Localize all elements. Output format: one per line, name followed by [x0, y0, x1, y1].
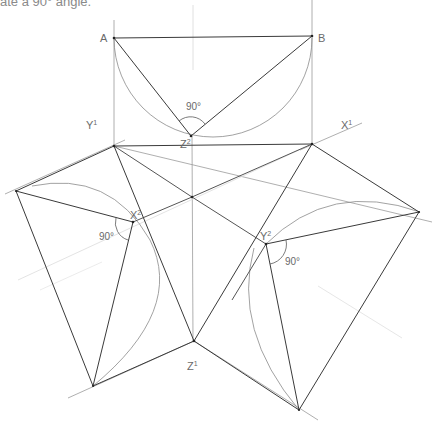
- angle-mark-right: [270, 240, 286, 264]
- angle-label-left: 90°: [99, 231, 114, 242]
- angle-mark-top: [179, 117, 205, 124]
- angle-label-right: 90°: [285, 256, 300, 267]
- label-b: B: [318, 32, 325, 44]
- right-arc-bottom: [249, 248, 299, 410]
- angle-mark-left: [115, 218, 128, 240]
- diagram-canvas: ate a 90° angle.: [0, 0, 436, 424]
- isometric-construction-diagram: A B Z2 Y1 X1 X2 Y2 Z1 90° 90° 90°: [0, 0, 436, 424]
- label-z1: Z1: [187, 360, 198, 372]
- label-x1: X1: [341, 119, 352, 131]
- right-arc-top: [266, 201, 420, 244]
- label-z2: Z2: [180, 138, 191, 150]
- main-lines: [16, 36, 419, 410]
- top-semicircle: [114, 38, 312, 137]
- angle-label-top: 90°: [186, 101, 201, 112]
- label-y1: Y1: [86, 119, 97, 131]
- vertex-points: [15, 35, 420, 411]
- label-a: A: [100, 32, 108, 44]
